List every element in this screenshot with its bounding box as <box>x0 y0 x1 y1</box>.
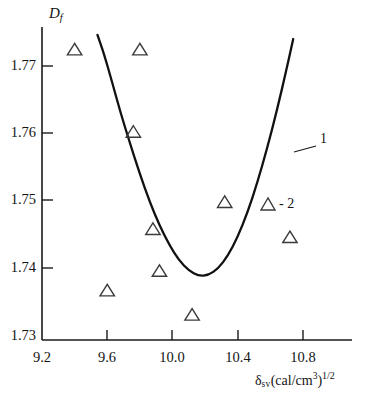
figure-container: Df 1.77 1.76 1.75 1.74 1.73 9.2 9.6 10.0… <box>0 0 376 397</box>
data-point-marker <box>218 196 232 208</box>
plot-canvas <box>0 0 376 397</box>
x-axis-title-subscript: sv <box>262 379 271 389</box>
x-tick-label-10.0: 10.0 <box>149 350 195 365</box>
y-axis-title-symbol: D <box>49 5 60 21</box>
scatter-markers-series-2 <box>67 43 297 320</box>
y-axis-title-subscript: f <box>60 12 63 23</box>
x-tick-label-9.2: 9.2 <box>19 350 65 365</box>
x-tick-label-9.6: 9.6 <box>84 350 130 365</box>
y-axis-title: Df <box>49 6 63 23</box>
data-point-marker <box>133 43 147 55</box>
y-tick-label-1.75: 1.75 <box>0 192 36 207</box>
x-axis-title: δsv(cal/cm3)1/2 <box>255 371 335 390</box>
x-axis-ticks <box>107 330 303 340</box>
x-tick-label-10.8: 10.8 <box>280 350 326 365</box>
curve-label-1: 1 <box>320 132 327 146</box>
legend-triangle-icon <box>261 198 275 210</box>
data-point-marker <box>100 284 114 296</box>
y-axis-ticks <box>42 66 53 268</box>
curve-series-1 <box>97 35 293 276</box>
x-tick-label-10.4: 10.4 <box>215 350 261 365</box>
y-tick-label-1.77: 1.77 <box>0 58 36 73</box>
y-tick-label-1.73: 1.73 <box>0 328 36 343</box>
data-point-marker <box>283 231 297 243</box>
y-tick-label-1.74: 1.74 <box>0 260 36 275</box>
data-point-marker <box>146 223 160 235</box>
data-point-marker <box>152 265 166 277</box>
data-point-marker <box>185 309 199 321</box>
curve-1-leader-line <box>294 146 316 152</box>
x-axis-title-symbol: δ <box>255 373 262 388</box>
x-axis-title-exponent: 1/2 <box>322 370 335 381</box>
axes <box>42 27 352 340</box>
data-point-marker <box>67 43 81 55</box>
legend-label-2: - 2 <box>279 197 294 211</box>
x-axis-title-unit-open: (cal/cm <box>271 373 313 388</box>
y-tick-label-1.76: 1.76 <box>0 125 36 140</box>
